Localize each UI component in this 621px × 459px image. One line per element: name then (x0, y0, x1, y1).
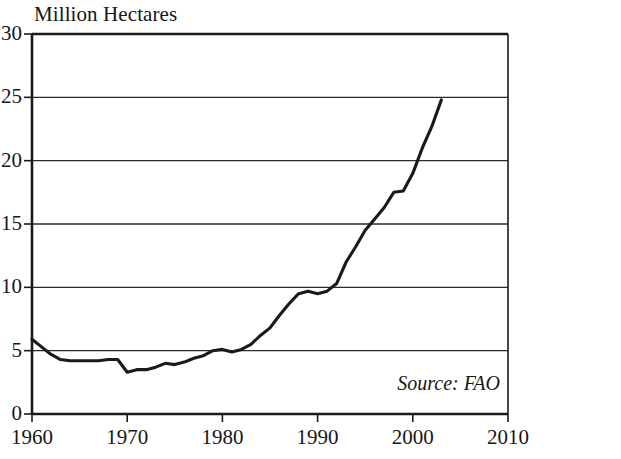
y-tick-label-30: 30 (0, 23, 22, 44)
x-tick-label-1990: 1990 (283, 427, 353, 448)
x-tick-label-1970: 1970 (92, 427, 162, 448)
y-tick-label-15: 15 (0, 213, 22, 234)
x-tick-label-2010: 2010 (473, 427, 543, 448)
gridlines-group (32, 97, 508, 350)
y-tick-label-5: 5 (0, 340, 22, 361)
y-tick-label-25: 25 (0, 86, 22, 107)
data-series-group (32, 100, 441, 372)
y-tick-label-10: 10 (0, 276, 22, 297)
axis-ticks-group (24, 34, 508, 422)
x-tick-label-1960: 1960 (0, 427, 67, 448)
x-tick-label-1980: 1980 (187, 427, 257, 448)
chart-figure: Million Hectares 051015202530 1960197019… (0, 0, 621, 459)
x-tick-label-2000: 2000 (378, 427, 448, 448)
data-line-area (32, 100, 441, 372)
y-tick-label-0: 0 (0, 403, 22, 424)
source-annotation: Source: FAO (368, 372, 500, 394)
chart-plot-area (0, 0, 621, 459)
y-tick-label-20: 20 (0, 150, 22, 171)
